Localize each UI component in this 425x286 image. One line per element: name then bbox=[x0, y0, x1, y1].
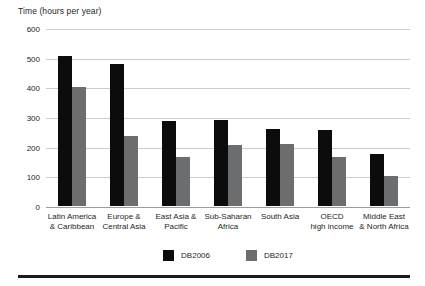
legend-label: DB2017 bbox=[264, 251, 293, 260]
y-tick-label: 100 bbox=[14, 173, 40, 182]
legend-item: DB2006 bbox=[163, 250, 210, 261]
bar-group bbox=[214, 28, 242, 206]
y-tick-label: 400 bbox=[14, 84, 40, 93]
x-category-label: South Asia bbox=[254, 212, 306, 231]
bottom-rule bbox=[18, 275, 410, 278]
bar-group bbox=[162, 28, 190, 206]
bar-db2017 bbox=[176, 157, 190, 206]
bar-db2006 bbox=[266, 129, 280, 206]
chart-title: Time (hours per year) bbox=[18, 6, 102, 16]
bar-db2006 bbox=[58, 56, 72, 206]
bar-db2006 bbox=[214, 120, 228, 206]
bar-group bbox=[318, 28, 346, 206]
y-tick-label: 300 bbox=[14, 114, 40, 123]
x-category-label: Latin America & Caribbean bbox=[46, 212, 98, 231]
bar-groups bbox=[46, 28, 410, 206]
bar-group bbox=[266, 28, 294, 206]
y-tick-label: 0 bbox=[14, 203, 40, 212]
x-category-label: East Asia & Pacific bbox=[150, 212, 202, 231]
bar-group bbox=[58, 28, 86, 206]
bar-db2006 bbox=[162, 121, 176, 206]
y-tick-label: 600 bbox=[14, 25, 40, 34]
plot-area: 6005004003002001000 bbox=[46, 29, 410, 207]
bar-db2006 bbox=[370, 154, 384, 206]
x-axis-baseline bbox=[46, 207, 410, 208]
bar-db2017 bbox=[332, 157, 346, 206]
x-category-label: Europe & Central Asia bbox=[98, 212, 150, 231]
legend: DB2006DB2017 bbox=[46, 250, 410, 261]
x-axis-labels: Latin America & CaribbeanEurope & Centra… bbox=[46, 212, 410, 231]
bar-db2017 bbox=[384, 176, 398, 206]
legend-item: DB2017 bbox=[246, 250, 293, 261]
legend-swatch-icon bbox=[163, 250, 174, 261]
bar-chart-figure: Time (hours per year) 600500400300200100… bbox=[0, 0, 425, 286]
bar-db2017 bbox=[228, 145, 242, 206]
bar-group bbox=[110, 28, 138, 206]
bar-db2017 bbox=[124, 136, 138, 206]
legend-label: DB2006 bbox=[181, 251, 210, 260]
y-tick-label: 200 bbox=[14, 143, 40, 152]
x-category-label: OECD high income bbox=[306, 212, 358, 231]
y-tick-label: 500 bbox=[14, 54, 40, 63]
bar-db2006 bbox=[110, 64, 124, 206]
x-category-label: Sub-Saharan Africa bbox=[202, 212, 254, 231]
bar-db2017 bbox=[72, 87, 86, 206]
bar-db2006 bbox=[318, 130, 332, 206]
bar-group bbox=[370, 28, 398, 206]
bar-db2017 bbox=[280, 144, 294, 206]
x-category-label: Middle East & North Africa bbox=[358, 212, 410, 231]
legend-swatch-icon bbox=[246, 250, 257, 261]
